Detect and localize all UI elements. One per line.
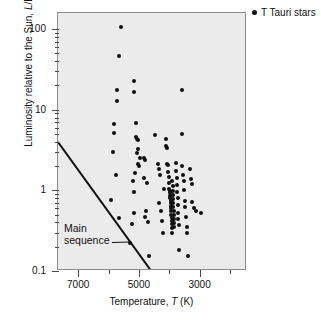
y-axis-minor-tick bbox=[55, 166, 59, 167]
data-point bbox=[180, 164, 184, 168]
data-point bbox=[132, 90, 136, 94]
x-axis-tick-label: 3000 bbox=[188, 279, 210, 290]
y-axis-tick-labels: 1001010.1 bbox=[0, 12, 55, 270]
x-axis-ticks bbox=[57, 270, 246, 279]
y-axis-minor-tick bbox=[55, 128, 59, 129]
y-axis-minor-tick bbox=[55, 208, 59, 209]
y-axis-minor-tick bbox=[55, 215, 59, 216]
data-point bbox=[132, 211, 136, 215]
data-point bbox=[147, 254, 151, 258]
y-axis-tick-label: 0.1 bbox=[32, 265, 46, 276]
data-point bbox=[190, 182, 194, 186]
y-axis-minor-tick bbox=[55, 122, 59, 123]
x-axis-minor-tick bbox=[109, 270, 110, 274]
data-point bbox=[174, 161, 178, 165]
legend: T Tauri stars bbox=[252, 7, 316, 18]
y-axis-title-italic: L bbox=[23, 5, 34, 11]
main-sequence-annotation: Mainsequence bbox=[64, 222, 110, 246]
y-axis-minor-tick bbox=[55, 37, 59, 38]
y-axis-minor-tick bbox=[55, 194, 59, 195]
x-axis-title-pre: Temperature, bbox=[110, 296, 172, 307]
y-axis-major-tick bbox=[52, 29, 59, 30]
data-point bbox=[161, 231, 165, 235]
data-point bbox=[132, 79, 136, 83]
x-axis-tick-label: 7000 bbox=[67, 279, 89, 290]
data-point bbox=[172, 225, 176, 229]
data-point bbox=[112, 131, 116, 135]
data-point bbox=[181, 173, 185, 177]
data-point bbox=[175, 183, 179, 187]
x-axis-tick-label: 5000 bbox=[128, 279, 150, 290]
main-sequence-annotation-line1: Main bbox=[64, 222, 110, 234]
data-point bbox=[109, 198, 113, 202]
data-point bbox=[194, 209, 198, 213]
data-point bbox=[170, 231, 174, 235]
y-axis-minor-tick bbox=[55, 198, 59, 199]
data-point bbox=[183, 205, 187, 209]
y-axis-tick-label: 1 bbox=[40, 184, 46, 195]
data-point bbox=[176, 211, 180, 215]
y-axis-minor-tick bbox=[55, 118, 59, 119]
data-point bbox=[160, 219, 164, 223]
data-point bbox=[162, 187, 166, 191]
y-axis-minor-tick bbox=[55, 134, 59, 135]
data-point bbox=[188, 167, 192, 171]
y-axis-minor-tick bbox=[55, 142, 59, 143]
data-point bbox=[117, 216, 121, 220]
data-point bbox=[182, 188, 186, 192]
y-axis-minor-tick bbox=[55, 47, 59, 48]
x-axis-major-tick bbox=[200, 270, 201, 277]
data-point bbox=[130, 222, 134, 226]
data-point bbox=[199, 211, 203, 215]
data-point bbox=[182, 179, 186, 183]
data-point bbox=[180, 132, 184, 136]
y-axis-major-tick bbox=[52, 110, 59, 111]
figure: Luminosity relative to the Sun, L/L⊙ 100… bbox=[0, 0, 321, 325]
main-sequence-line bbox=[58, 141, 153, 269]
data-point bbox=[185, 231, 189, 235]
x-axis-title-post: (K) bbox=[177, 296, 193, 307]
data-point bbox=[166, 170, 170, 174]
y-axis-minor-tick bbox=[55, 152, 59, 153]
data-point bbox=[153, 133, 157, 137]
y-axis-major-tick bbox=[52, 190, 59, 191]
data-point bbox=[190, 200, 194, 204]
data-point bbox=[175, 176, 179, 180]
data-point bbox=[183, 199, 187, 203]
data-point bbox=[111, 150, 115, 154]
data-point bbox=[145, 181, 149, 185]
data-point bbox=[133, 171, 137, 175]
data-point bbox=[164, 137, 168, 141]
data-point bbox=[186, 254, 190, 258]
data-point bbox=[175, 190, 179, 194]
data-point bbox=[146, 220, 150, 224]
x-axis-tick-labels: 700050003000 bbox=[57, 279, 246, 293]
y-axis-minor-tick bbox=[55, 61, 59, 62]
y-axis-tick-label: 10 bbox=[35, 103, 46, 114]
x-axis-major-tick bbox=[78, 270, 79, 277]
data-point bbox=[165, 146, 169, 150]
data-point bbox=[176, 203, 180, 207]
data-point bbox=[177, 248, 181, 252]
data-point bbox=[166, 163, 170, 167]
data-point bbox=[184, 215, 188, 219]
data-point bbox=[119, 25, 123, 29]
y-axis-minor-tick bbox=[55, 42, 59, 43]
data-point bbox=[115, 88, 119, 92]
data-point bbox=[137, 164, 141, 168]
y-axis-minor-tick bbox=[55, 113, 59, 114]
y-axis-minor-tick bbox=[55, 203, 59, 204]
data-point bbox=[157, 201, 161, 205]
data-point bbox=[158, 173, 162, 177]
data-point bbox=[136, 138, 140, 142]
data-point bbox=[157, 167, 161, 171]
y-axis-tick-label: 100 bbox=[29, 23, 46, 34]
data-point bbox=[117, 54, 121, 58]
main-sequence-annotation-line2: sequence bbox=[64, 234, 110, 246]
y-axis-ticks bbox=[58, 13, 59, 269]
y-axis-minor-tick bbox=[55, 71, 59, 72]
data-point bbox=[189, 177, 193, 181]
data-point bbox=[177, 223, 181, 227]
data-point bbox=[114, 173, 118, 177]
data-point bbox=[132, 190, 136, 194]
